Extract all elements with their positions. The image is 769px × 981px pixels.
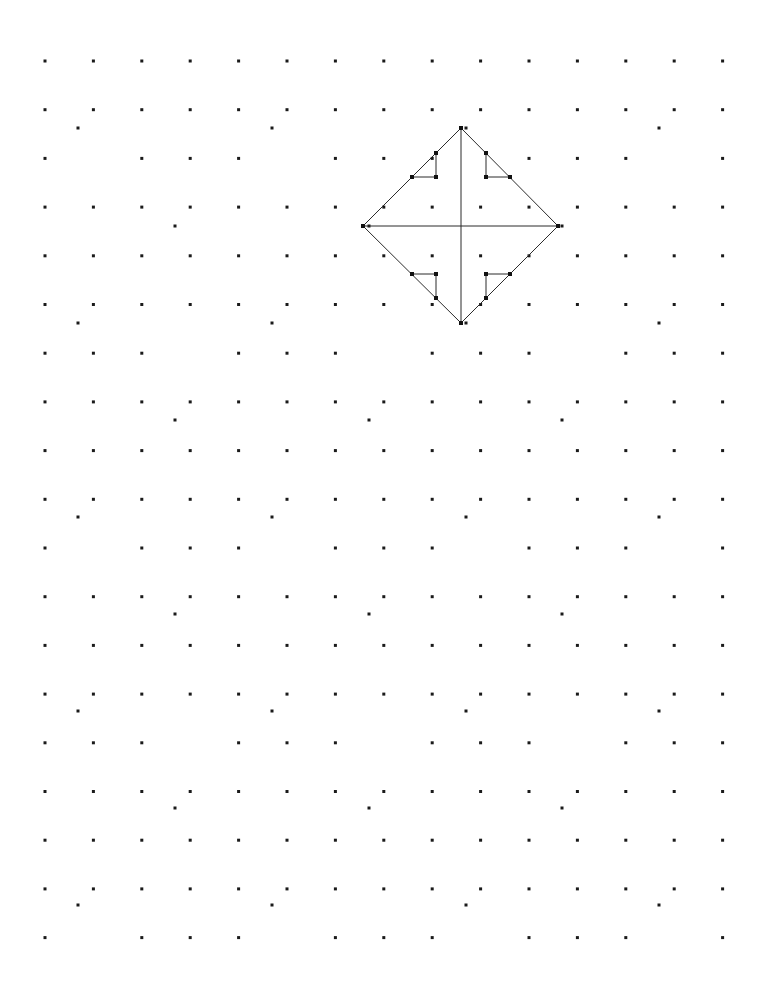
- grid-dot: [382, 595, 385, 598]
- grid-dot: [189, 254, 192, 257]
- grid-dot: [237, 206, 240, 209]
- grid-dot: [286, 60, 289, 63]
- grid-dot: [189, 449, 192, 452]
- grid-dot: [528, 60, 531, 63]
- grid-dot: [382, 400, 385, 403]
- grid-dot: [431, 400, 434, 403]
- grid-dot-offset: [561, 225, 564, 228]
- grid-dot: [479, 839, 482, 842]
- grid-dot: [528, 400, 531, 403]
- grid-dot: [673, 693, 676, 696]
- grid-dot-offset: [77, 127, 80, 130]
- grid-dot: [721, 60, 724, 63]
- grid-dot: [92, 303, 95, 306]
- grid-dot: [624, 449, 627, 452]
- grid-dot: [673, 206, 676, 209]
- grid-dot: [431, 936, 434, 939]
- grid-dot: [624, 157, 627, 160]
- grid-dot: [237, 400, 240, 403]
- grid-dot: [576, 839, 579, 842]
- grid-dot-offset: [465, 322, 468, 325]
- grid-dot-offset: [368, 225, 371, 228]
- grid-dot: [479, 595, 482, 598]
- grid-dot: [528, 936, 531, 939]
- grid-dot: [576, 60, 579, 63]
- grid-dot: [286, 790, 289, 793]
- grid-dot: [44, 839, 47, 842]
- grid-dot: [140, 839, 143, 842]
- grid-dot-offset: [561, 419, 564, 422]
- grid-dot-offset: [658, 127, 661, 130]
- grid-dot: [140, 352, 143, 355]
- grid-dot: [673, 595, 676, 598]
- grid-dot: [528, 157, 531, 160]
- grid-dot: [140, 595, 143, 598]
- grid-dot: [44, 60, 47, 63]
- grid-dot: [528, 839, 531, 842]
- grid-dot: [92, 790, 95, 793]
- grid-dot: [624, 839, 627, 842]
- grid-dot: [189, 887, 192, 890]
- grid-dot: [140, 108, 143, 111]
- grid-dot-offset: [368, 807, 371, 810]
- grid-dot: [624, 400, 627, 403]
- grid-dot: [624, 595, 627, 598]
- grid-dot: [140, 400, 143, 403]
- grid-dot-offset: [658, 322, 661, 325]
- grid-dot: [237, 60, 240, 63]
- grid-dot: [189, 400, 192, 403]
- grid-dot: [479, 790, 482, 793]
- grid-dot: [286, 254, 289, 257]
- grid-dot: [334, 595, 337, 598]
- grid-dot: [576, 887, 579, 890]
- grid-dot: [92, 839, 95, 842]
- grid-dot: [334, 60, 337, 63]
- grid-dot: [334, 206, 337, 209]
- grid-dot: [286, 206, 289, 209]
- grid-dot: [479, 303, 482, 306]
- grid-dot-offset: [77, 322, 80, 325]
- grid-dot: [92, 352, 95, 355]
- grid-dot: [576, 644, 579, 647]
- grid-dot: [479, 400, 482, 403]
- grid-dot-offset: [465, 904, 468, 907]
- grid-dot: [92, 400, 95, 403]
- grid-dot: [189, 644, 192, 647]
- grid-dot: [624, 352, 627, 355]
- grid-dot: [237, 254, 240, 257]
- grid-dot: [334, 741, 337, 744]
- dot-grid: [0, 0, 769, 981]
- grid-dot: [44, 449, 47, 452]
- grid-dot: [721, 644, 724, 647]
- grid-dot: [140, 498, 143, 501]
- grid-dot: [189, 790, 192, 793]
- grid-dot: [479, 449, 482, 452]
- grid-dot: [237, 936, 240, 939]
- grid-dot: [334, 790, 337, 793]
- grid-dot: [286, 839, 289, 842]
- grid-dot: [189, 839, 192, 842]
- grid-dot: [528, 303, 531, 306]
- grid-dot: [140, 254, 143, 257]
- grid-dot: [528, 887, 531, 890]
- grid-dot: [189, 498, 192, 501]
- grid-dot: [382, 108, 385, 111]
- grid-dot: [237, 498, 240, 501]
- grid-dot: [479, 741, 482, 744]
- grid-dot: [44, 644, 47, 647]
- grid-dot: [286, 108, 289, 111]
- grid-dot: [92, 108, 95, 111]
- grid-dot-offset: [174, 419, 177, 422]
- grid-dot: [140, 206, 143, 209]
- grid-dot: [44, 595, 47, 598]
- grid-dot: [431, 693, 434, 696]
- grid-dot: [431, 790, 434, 793]
- grid-dot: [721, 887, 724, 890]
- grid-dot: [286, 352, 289, 355]
- grid-dot: [92, 644, 95, 647]
- grid-dot: [431, 547, 434, 550]
- grid-dot: [576, 498, 579, 501]
- grid-dot: [286, 498, 289, 501]
- grid-dot: [479, 693, 482, 696]
- grid-dot: [576, 547, 579, 550]
